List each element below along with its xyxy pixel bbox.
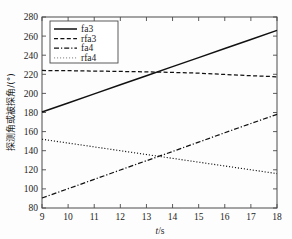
x-tick-label: 10 [63,212,73,222]
x-tick-label: 16 [220,212,230,222]
y-tick-label: 260 [24,32,39,42]
x-tick-label: 12 [116,212,126,222]
x-tick-label: 9 [40,212,45,222]
line-chart-svg: 9101112131415161718 80100120140160180200… [0,0,292,239]
chart-figure: 9101112131415161718 80100120140160180200… [0,0,292,239]
y-tick-label: 200 [24,89,39,99]
y-tick-label: 100 [24,184,39,194]
x-tick-label: 18 [272,212,282,222]
y-tick-label: 160 [24,127,39,137]
y-tick-label: 120 [24,165,39,175]
y-tick-label: 240 [24,51,39,61]
x-tick-label: 13 [142,212,152,222]
y-tick-label: 140 [24,146,39,156]
legend-label-rfa3: rfa3 [81,34,97,44]
y-tick-label: 180 [24,108,39,118]
x-tick-label: 14 [168,212,178,222]
y-axis-title: 探测角或被探角/(°) [5,73,16,151]
x-tick-label: 15 [194,212,204,222]
legend-label-rfa4: rfa4 [81,53,97,63]
x-axis-title: t/s [156,226,165,236]
x-tick-label: 17 [246,212,256,222]
y-tick-label: 280 [24,12,39,22]
x-axis-title-unit: /s [158,226,165,236]
y-tick-label: 220 [24,70,39,80]
y-tick-label: 80 [29,203,39,213]
legend-label-fa4: fa4 [81,43,93,53]
legend-label-fa3: fa3 [81,24,93,34]
chart-legend: fa3rfa3fa4rfa4 [50,21,118,63]
x-tick-label: 11 [90,212,99,222]
